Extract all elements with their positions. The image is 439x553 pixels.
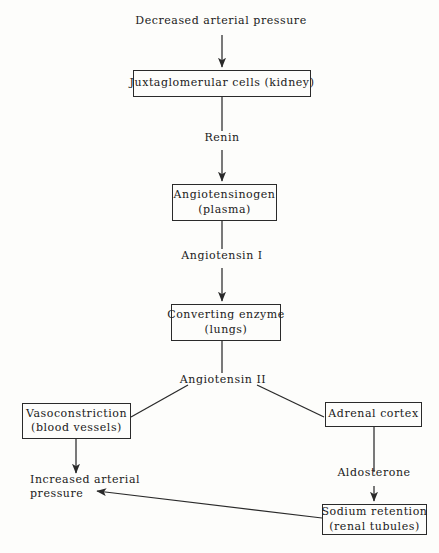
node-decreased-arterial-pressure: Decreased arterial pressure: [108, 14, 334, 28]
node-angiotensinogen[interactable]: Angiotensinogen (plasma): [172, 184, 277, 221]
edge-label-angiotensin-ii: Angiotensin II: [162, 373, 284, 387]
node-sodium-retention-line2: (renal tubules): [329, 520, 420, 534]
edge-angiotensin-ii-to-adrenal-cortex: [257, 385, 324, 417]
flowchart-diagram: Decreased arterial pressure Juxtaglomeru…: [0, 0, 439, 553]
node-converting-enzyme-line2: (lungs): [205, 323, 248, 337]
node-sodium-retention[interactable]: Sodium retention (renal tubules): [322, 504, 427, 535]
node-angiotensinogen-line2: (plasma): [198, 203, 251, 217]
node-adrenal-cortex[interactable]: Adrenal cortex: [325, 402, 422, 427]
node-juxtaglomerular-cells[interactable]: Juxtaglomerular cells (kidney): [133, 70, 311, 97]
node-vasoconstriction-line1: Vasoconstriction: [26, 407, 127, 421]
edge-label-renin: Renin: [172, 131, 272, 145]
node-increased-arterial-pressure-line2: pressure: [30, 487, 83, 500]
node-increased-arterial-pressure-line1: Increased arterial: [30, 473, 140, 486]
node-vasoconstriction[interactable]: Vasoconstriction (blood vessels): [22, 403, 131, 439]
node-vasoconstriction-line2: (blood vessels): [31, 421, 122, 435]
node-sodium-retention-line1: Sodium retention: [322, 505, 428, 519]
node-angiotensinogen-line1: Angiotensinogen: [174, 188, 276, 202]
node-juxtaglomerular-cells-line1: Juxtaglomerular cells (kidney): [130, 76, 315, 90]
node-adrenal-cortex-line1: Adrenal cortex: [328, 407, 418, 421]
edge-label-angiotensin-i: Angiotensin I: [162, 249, 282, 263]
node-converting-enzyme-line1: Converting enzyme: [167, 308, 285, 322]
edge-label-aldosterone: Aldosterone: [319, 466, 429, 480]
edge-angiotensin-ii-to-vasoconstriction: [131, 385, 188, 417]
node-increased-arterial-pressure: Increased arterial pressure: [30, 473, 150, 501]
node-converting-enzyme[interactable]: Converting enzyme (lungs): [171, 304, 281, 341]
